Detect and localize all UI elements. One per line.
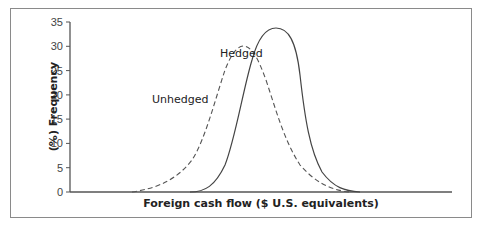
y-tick-5: 5 [57,162,63,174]
y-tick-35: 35 [51,16,63,28]
hedged-curve [190,28,360,192]
y-axis-label: (%) Frequency [47,52,60,162]
y-tick-0: 0 [57,186,63,198]
unhedged-curve [132,46,350,192]
unhedged-label: Unhedged [152,93,208,106]
chart-plot: 35 30 25 20 15 10 5 0 Hedged Unhedged [0,0,478,226]
y-tick-30: 30 [51,40,63,52]
x-axis-label: Foreign cash flow ($ U.S. equivalents) [70,197,452,210]
hedged-label: Hedged [220,47,263,60]
